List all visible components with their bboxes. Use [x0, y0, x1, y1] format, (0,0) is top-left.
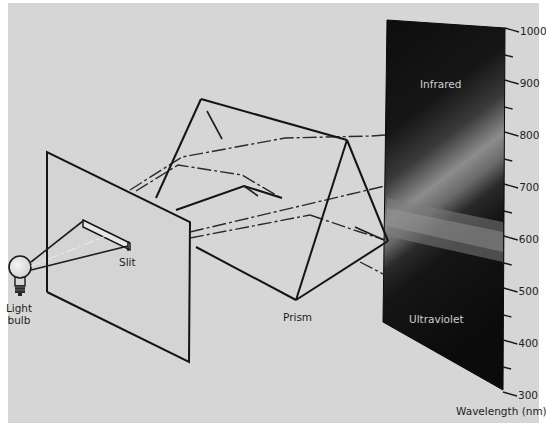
slit-label: Slit — [119, 256, 136, 268]
major-tick — [503, 392, 517, 396]
minor-tick — [505, 107, 513, 109]
prism-label: Prism — [283, 311, 312, 323]
wavelength-axis — [503, 28, 519, 396]
major-tick — [504, 132, 518, 136]
major-tick — [503, 340, 517, 344]
tick-label-800: 800 — [519, 129, 539, 141]
light-bulb-label-line1: Light — [2, 302, 36, 314]
light-bulb-label-line2: bulb — [2, 314, 36, 326]
tick-label-1000: 1000 — [520, 25, 546, 37]
major-tick — [504, 288, 518, 292]
tick-label-500: 500 — [519, 285, 539, 297]
infrared-label: Infrared — [420, 78, 461, 90]
minor-tick — [504, 211, 512, 213]
minor-tick — [505, 55, 513, 57]
major-tick — [505, 80, 519, 84]
ultraviolet-label: Ultraviolet — [409, 313, 464, 325]
major-tick — [504, 184, 518, 188]
axis-title: Wavelength (nm) — [456, 405, 546, 417]
tick-label-600: 600 — [519, 233, 539, 245]
minor-tick — [503, 315, 511, 317]
minor-tick — [503, 367, 511, 369]
minor-tick — [504, 159, 512, 161]
tick-label-900: 900 — [520, 77, 540, 89]
major-tick — [505, 28, 519, 32]
minor-tick — [504, 263, 512, 265]
tick-label-700: 700 — [519, 181, 539, 193]
major-tick — [504, 236, 518, 240]
dispersion-diagram — [0, 0, 546, 432]
light-bulb-label: Light bulb — [2, 302, 36, 326]
tick-label-400: 400 — [518, 337, 538, 349]
spectrum-screen — [383, 20, 505, 390]
prism — [156, 99, 388, 300]
light-bulb — [9, 256, 31, 296]
tick-label-300: 300 — [518, 389, 538, 401]
figure: Light bulb Slit Prism Infrared Ultraviol… — [0, 0, 546, 432]
